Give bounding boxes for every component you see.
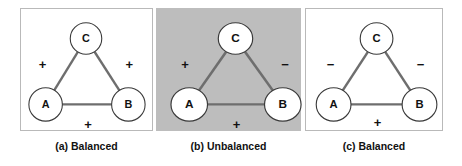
node-label-A: A [330,99,338,111]
edge-sign-A-C: + [39,58,47,71]
edge-sign-A-C: − [327,58,335,71]
triad-graph-a: CAB+++ [21,9,152,130]
edge-sign-A-C: + [181,58,189,71]
triad-graph-b: CAB+−+ [157,9,300,130]
caption-panel-b: (b) Unbalanced [156,140,301,152]
node-label-B: B [124,98,132,110]
node-label-A: A [42,98,50,110]
panel-a: CAB+++ [20,8,153,131]
triad-graph-c: CAB−−+ [306,9,442,130]
edge-sign-C-B: + [126,58,134,71]
node-label-A: A [185,99,194,110]
balance-triads-figure: CAB+++ CAB+−+ CAB−−+ (a) Balanced (b) Un… [0,0,462,166]
edge-sign-A-B: + [233,118,241,131]
edge-sign-A-B: + [374,116,382,129]
node-label-C: C [372,33,380,45]
edge-sign-C-B: − [281,58,289,71]
panel-b: CAB+−+ [156,8,301,131]
panel-c: CAB−−+ [305,8,443,131]
node-label-B: B [279,99,288,110]
caption-panel-a: (a) Balanced [20,140,153,152]
caption-panel-c: (c) Balanced [305,140,443,152]
node-label-C: C [82,33,90,45]
node-label-B: B [415,99,423,111]
edge-sign-C-B: − [417,58,425,71]
node-label-C: C [231,33,240,44]
edge-sign-A-B: + [84,118,92,131]
